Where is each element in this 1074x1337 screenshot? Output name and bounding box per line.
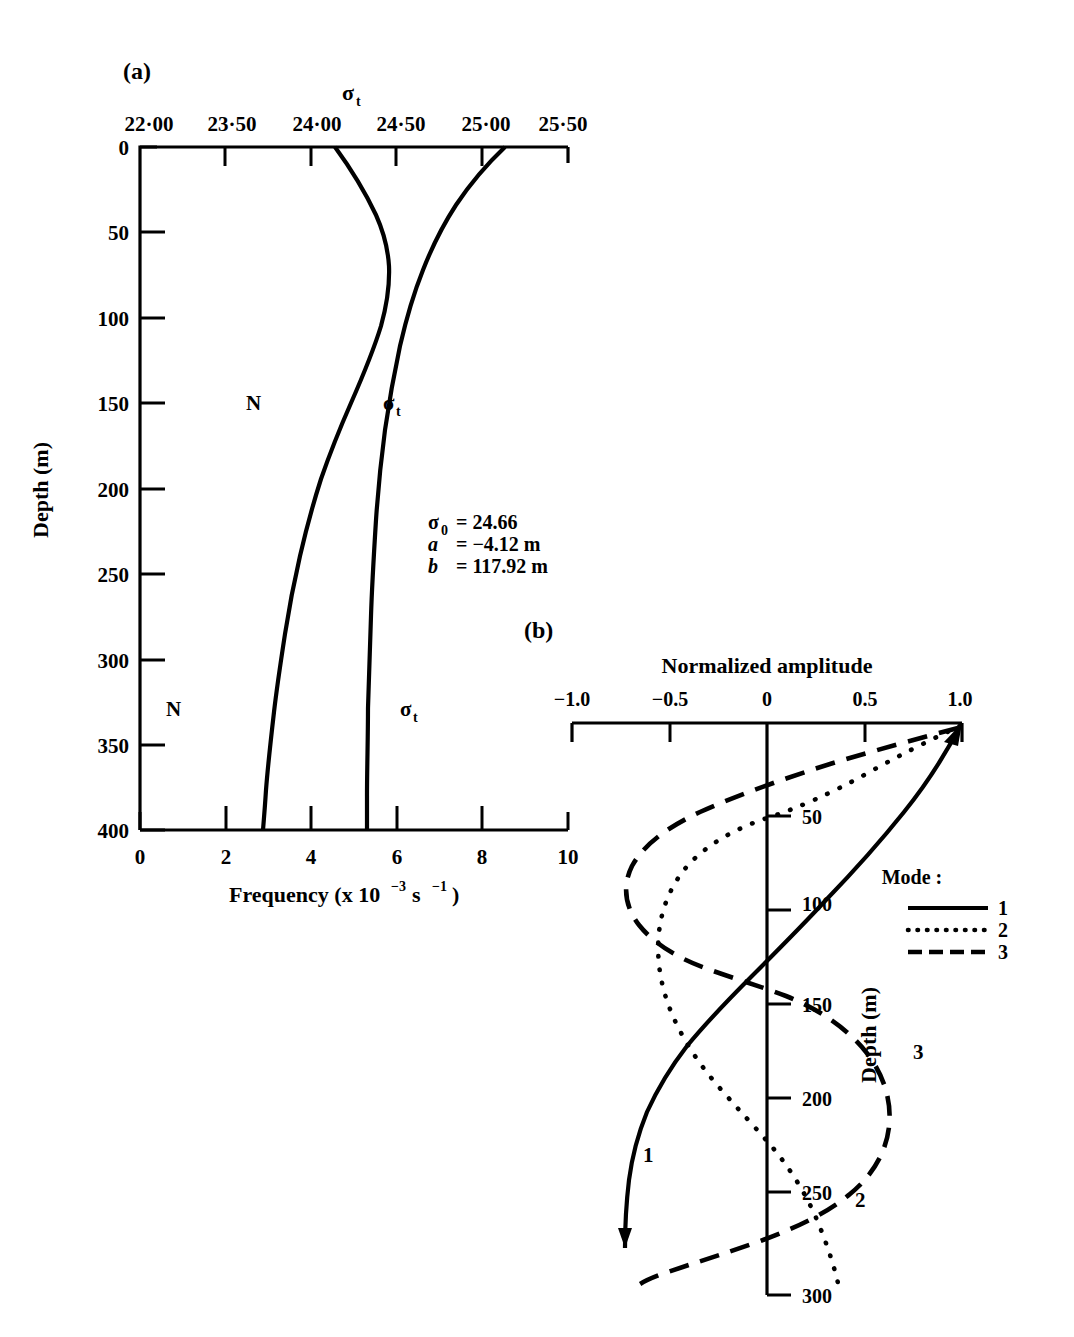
panel-b-depth-tick-3: 200 (802, 1088, 832, 1110)
panel-b-inline-label-1: 1 (643, 1143, 654, 1167)
panel-a: (a) σ t 22·00 23·50 24·00 24·50 25·00 25… (28, 58, 588, 907)
panel-b-amp-tick-4: 1.0 (948, 688, 973, 710)
annot-b-value: = 117.92 m (456, 555, 548, 577)
panel-a-freq-tick-5: 10 (558, 845, 579, 869)
annot-a-value: = −4.12 m (456, 533, 541, 555)
sigma-lower-subscript: t (413, 710, 418, 725)
panel-a-label-N-lower: N (166, 697, 181, 721)
panel-b-depth-tick-5: 300 (802, 1285, 832, 1307)
panel-b-depth-tick-4: 250 (802, 1182, 832, 1204)
panel-b-origin-arrow (944, 723, 962, 746)
legend-label-2: 2 (998, 919, 1008, 941)
legend-label-1: 1 (998, 897, 1008, 919)
freq-title-exp2: −1 (432, 879, 447, 894)
panel-a-annotation: σ 0 = 24.66 a = −4.12 m b = 117.92 m (428, 511, 548, 577)
panel-b-amp-tick-1: −0.5 (652, 688, 688, 710)
panel-a-top-tick-2: 24·00 (292, 112, 341, 136)
sigma-symbol: σ (342, 80, 354, 105)
panel-a-depth-tick-7: 350 (98, 734, 130, 758)
panel-a-depth-tick-0: 0 (119, 136, 130, 160)
panel-b-curve-mode-3 (626, 728, 958, 1290)
freq-title-mid: s (412, 882, 421, 907)
annot-sigma0-subscript: 0 (441, 523, 448, 538)
panel-a-depth-tick-8: 400 (98, 819, 130, 843)
panel-b-inline-label-2: 2 (855, 1188, 866, 1212)
panel-a-top-tick-3: 24·50 (376, 112, 425, 136)
legend-item-2: 2 (908, 919, 1008, 941)
panel-a-freq-tick-1: 2 (221, 845, 232, 869)
legend-label-3: 3 (998, 941, 1008, 963)
sigma-upper-subscript: t (396, 404, 401, 419)
panel-a-depth-tick-2: 100 (98, 307, 130, 331)
panel-a-frame (140, 147, 568, 830)
panel-b-amp-tick-3: 0.5 (853, 688, 878, 710)
panel-b-depth-tick-0: 50 (802, 806, 822, 828)
sigma-subscript: t (356, 94, 361, 109)
panel-a-freq-tick-0: 0 (135, 845, 146, 869)
freq-title-main: Frequency (x 10 (229, 882, 380, 907)
panel-a-bottom-ticks (140, 806, 568, 830)
freq-title-tail: ) (452, 882, 459, 907)
panel-a-top-tick-0: 22·00 (124, 112, 173, 136)
panel-b-legend: Mode : 1 2 3 (882, 866, 1008, 963)
panel-a-top-ticks (225, 147, 482, 166)
panel-a-depth-tick-3: 150 (98, 392, 130, 416)
freq-title-exp1: −3 (391, 879, 406, 894)
panel-a-top-tick-4: 25·00 (461, 112, 510, 136)
panel-b-amplitude-axis-title: Normalized amplitude (662, 653, 873, 678)
panel-a-freq-tick-4: 8 (477, 845, 488, 869)
panel-a-curve-N (263, 147, 389, 830)
legend-item-1: 1 (908, 897, 1008, 919)
panel-b-label: (b) (524, 617, 553, 643)
annot-b-symbol: b (428, 555, 438, 577)
panel-a-top-axis-title: σ t (342, 80, 361, 109)
panel-a-frequency-axis-title: Frequency (x 10 −3 s −1 ) (229, 879, 459, 907)
panel-b-curve-mode-1-arrow (618, 1228, 632, 1248)
panel-a-freq-tick-3: 6 (392, 845, 403, 869)
panel-a-depth-tick-5: 250 (98, 563, 130, 587)
panel-a-depth-tick-4: 200 (98, 478, 130, 502)
panel-a-depth-tick-6: 300 (98, 649, 130, 673)
panel-a-top-tick-1: 23·50 (207, 112, 256, 136)
panel-b-amp-tick-2: 0 (762, 688, 772, 710)
panel-a-label-sigma-upper: σ t (383, 391, 401, 419)
figure-svg: (a) σ t 22·00 23·50 24·00 24·50 25·00 25… (0, 0, 1074, 1337)
panel-b-curve-mode-1 (625, 726, 960, 1248)
panel-a-freq-tick-2: 4 (306, 845, 317, 869)
panel-a-depth-axis-title: Depth (m) (28, 442, 53, 538)
panel-a-top-tick-5: 25·50 (538, 112, 587, 136)
panel-b-depth-ticks (767, 816, 791, 1295)
panel-a-depth-tick-1: 50 (108, 221, 129, 245)
panel-a-left-ticks (140, 147, 165, 830)
annot-sigma0-symbol: σ (428, 511, 439, 533)
sigma-lower-symbol: σ (400, 697, 412, 721)
panel-b-inline-label-3: 3 (913, 1040, 924, 1064)
panel-b-amp-tick-0: −1.0 (554, 688, 590, 710)
legend-item-3: 3 (908, 941, 1008, 963)
panel-a-label: (a) (123, 58, 151, 84)
figure-container: (a) σ t 22·00 23·50 24·00 24·50 25·00 25… (0, 0, 1074, 1337)
annot-a-symbol: a (428, 533, 438, 555)
legend-title: Mode : (882, 866, 943, 888)
annot-sigma0-value: = 24.66 (456, 511, 517, 533)
panel-a-label-sigma-lower: σ t (400, 697, 418, 725)
panel-a-label-N-upper: N (246, 391, 261, 415)
panel-b: (b) Normalized amplitude −1.0 −0.5 0 0.5… (524, 617, 1008, 1307)
sigma-upper-symbol: σ (383, 391, 395, 415)
